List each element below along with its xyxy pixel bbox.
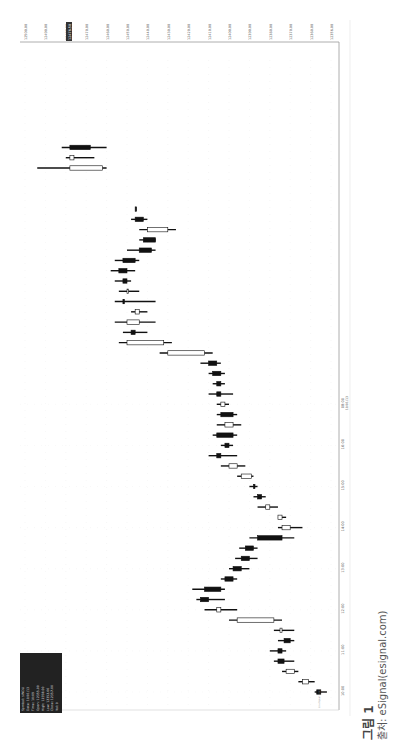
candle — [209, 453, 238, 457]
price-tick-label: 12460.00 — [106, 24, 110, 40]
candle — [217, 412, 237, 416]
watermark: (c) eSignal, 2013 — [318, 689, 321, 708]
figure-number: 그림 1 — [362, 611, 376, 741]
price-tick-label: 12450.00 — [126, 24, 130, 40]
candle — [196, 597, 225, 601]
candle — [278, 515, 286, 519]
price-tick-label: 12390.00 — [248, 24, 252, 40]
candle — [235, 556, 257, 560]
data-window-line: Date: 10/01/13 — [26, 687, 30, 711]
candle — [115, 258, 139, 262]
candlestick-chart: 12500.0012490.0012480.0012470.0012460.00… — [0, 0, 393, 748]
price-tick-label: 12500.00 — [24, 24, 28, 40]
data-window-line: Close: 12357.00 — [50, 685, 54, 711]
price-tick-label: 12400.00 — [228, 24, 232, 40]
candle — [278, 525, 302, 529]
candle — [258, 505, 278, 509]
candle — [139, 227, 176, 231]
candle — [160, 351, 213, 355]
candle — [131, 217, 147, 221]
data-window-line: Open: 12355.00 — [36, 685, 40, 711]
time-axis: 10:0011:0012:0013:0014:0015:0016:0008:00… — [341, 396, 349, 696]
data-window-line: Low: 12352.00 — [46, 688, 50, 711]
candle — [66, 156, 95, 160]
time-tick-label: 11:00 — [341, 644, 345, 655]
candle — [221, 443, 233, 447]
figure-caption: 그림 1 출처: eSignal(esignal.com) — [362, 611, 389, 741]
data-window-line: Vol: 0 — [55, 702, 59, 711]
candle — [111, 269, 135, 273]
candle — [253, 495, 265, 499]
candle — [205, 608, 238, 612]
candle — [298, 680, 314, 684]
price-tick-label: 12420.00 — [187, 24, 191, 40]
candle — [213, 382, 225, 386]
candle — [213, 433, 237, 437]
candle — [221, 577, 237, 581]
candle — [249, 536, 294, 540]
candle — [131, 310, 147, 314]
time-tick-label: 10:00 — [341, 685, 345, 696]
data-window-line: High: 12358.00 — [41, 686, 45, 711]
candle — [249, 484, 257, 488]
time-tick-label: 12:00 — [341, 603, 345, 614]
data-window-line: Time: 10:09 — [31, 692, 35, 712]
candle — [237, 474, 253, 478]
price-tick-label: 12490.00 — [44, 24, 48, 40]
data-window-line: Symbol: $INDU — [21, 686, 25, 711]
price-tick-label: 12380.00 — [269, 24, 273, 40]
grid-lines — [20, 60, 339, 705]
candle — [200, 361, 220, 365]
plot-frame — [20, 20, 350, 716]
candles — [37, 145, 327, 694]
candle — [278, 638, 294, 642]
price-tick-label: 12356.00 — [330, 24, 334, 40]
time-tick-label: 14:00 — [341, 521, 345, 532]
candle — [274, 628, 294, 632]
price-tick-label: 12470.00 — [85, 24, 89, 40]
price-tick-label: 12410.00 — [208, 24, 212, 40]
candle — [229, 567, 249, 571]
candle — [135, 207, 137, 211]
time-tick-label: 13:00 — [341, 562, 345, 573]
candle — [270, 649, 286, 653]
candle — [127, 248, 156, 252]
price-axis: 12500.0012490.0012480.0012470.0012460.00… — [24, 22, 334, 41]
candle — [119, 340, 172, 344]
candle — [123, 330, 147, 334]
candle — [37, 166, 106, 170]
candle — [209, 371, 225, 375]
price-tick-label: 12440.00 — [146, 24, 150, 40]
candle — [217, 402, 229, 406]
price-tick-label: 12370.00 — [289, 24, 293, 40]
candle — [239, 546, 257, 550]
price-tick-label: 12430.00 — [167, 24, 171, 40]
candle — [115, 320, 156, 324]
svg-text:12476.50: 12476.50 — [68, 24, 72, 40]
time-tick-label: 15:00 — [341, 479, 345, 490]
candle — [209, 392, 233, 396]
candle — [274, 659, 294, 663]
candle — [217, 423, 241, 427]
candle — [221, 464, 245, 468]
candle — [62, 145, 107, 149]
figure-source: 출처: eSignal(esignal.com) — [376, 611, 389, 741]
price-tick-label: 12360.00 — [310, 24, 314, 40]
candle — [115, 299, 156, 303]
candle — [229, 618, 282, 622]
candle — [119, 289, 139, 293]
date-label: 10/01/13 — [345, 396, 349, 410]
candle — [192, 587, 225, 591]
candle — [115, 279, 131, 283]
candle — [282, 669, 298, 673]
candle — [139, 238, 155, 242]
time-tick-label: 16:00 — [341, 438, 345, 449]
data-window-box: Symbol: $INDUDate: 10/01/13Time: 10:09Op… — [20, 653, 62, 713]
